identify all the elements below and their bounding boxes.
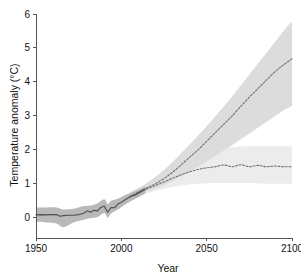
y-axis-title: Temperature anomaly (°C) bbox=[8, 63, 20, 186]
y-tick-label: 3 bbox=[24, 110, 30, 121]
chart-background bbox=[0, 0, 301, 279]
temperature-anomaly-chart: 01234561950200020502100 Temperature anom… bbox=[0, 0, 301, 279]
x-tick-label: 1950 bbox=[25, 243, 48, 254]
y-tick-label: 2 bbox=[24, 144, 30, 155]
y-tick-label: 1 bbox=[24, 178, 30, 189]
chart-svg: 01234561950200020502100 Temperature anom… bbox=[0, 0, 301, 279]
y-tick-label: 0 bbox=[24, 212, 30, 223]
y-tick-label: 5 bbox=[24, 42, 30, 53]
x-tick-label: 2100 bbox=[281, 243, 301, 254]
x-axis-title: Year bbox=[157, 262, 179, 274]
y-tick-label: 6 bbox=[24, 9, 30, 20]
y-tick-label: 4 bbox=[24, 76, 30, 87]
x-tick-label: 2000 bbox=[110, 243, 133, 254]
x-tick-label: 2050 bbox=[196, 243, 219, 254]
